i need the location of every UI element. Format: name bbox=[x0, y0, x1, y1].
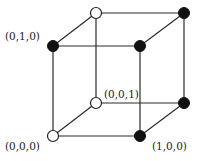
node-back-top-left bbox=[91, 8, 102, 19]
node-back-bottom-left bbox=[91, 98, 102, 109]
cube-diagram: (0,1,0) (0,0,1) (0,0,0) (1,0,0) bbox=[0, 0, 198, 161]
node-front-top-left bbox=[48, 41, 59, 52]
node-back-bottom-right bbox=[179, 98, 190, 109]
label-z-unit: (0,0,1) bbox=[104, 88, 139, 100]
edge-depth-top-left bbox=[53, 13, 96, 46]
label-y-unit: (0,1,0) bbox=[5, 30, 40, 42]
label-x-unit: (1,0,0) bbox=[152, 140, 187, 152]
node-front-bottom-right bbox=[135, 131, 146, 142]
edge-depth-bottom-right bbox=[140, 103, 184, 136]
edge-depth-top-right bbox=[140, 13, 184, 46]
node-front-bottom-left bbox=[48, 131, 59, 142]
edge-depth-bottom-left bbox=[53, 103, 96, 136]
label-origin: (0,0,0) bbox=[5, 140, 40, 152]
node-back-top-right bbox=[179, 8, 190, 19]
node-front-top-right bbox=[135, 41, 146, 52]
